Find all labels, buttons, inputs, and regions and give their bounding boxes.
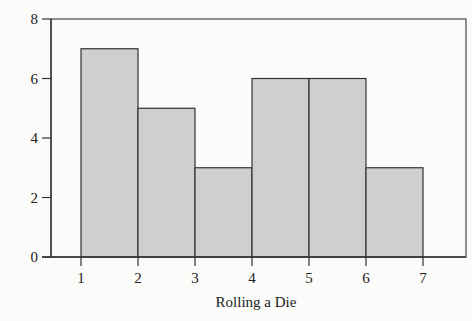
x-tick-label: 2 [134,270,142,286]
histogram-bar [366,168,423,257]
histogram-bar [309,79,366,258]
x-tick-label: 5 [305,270,313,286]
histogram-chart: 02468 1234567 Rolling a Die [0,0,472,321]
x-axis-label: Rolling a Die [216,294,297,310]
y-tick-label: 6 [31,71,39,87]
x-tick-label: 7 [419,270,427,286]
y-tick-label: 2 [31,190,39,206]
histogram-bar [81,49,138,257]
histogram-bar [252,79,309,258]
histogram-bar [195,168,252,257]
x-axis: 1234567 [42,257,466,286]
x-tick-label: 1 [77,270,85,286]
y-axis: 02468 [31,11,52,265]
x-tick-label: 4 [248,270,256,286]
histogram-bar [138,108,195,257]
bars [81,49,423,257]
y-tick-label: 0 [31,249,39,265]
x-tick-label: 6 [362,270,370,286]
y-tick-label: 4 [31,130,39,146]
y-tick-label: 8 [31,11,39,27]
x-tick-label: 3 [191,270,199,286]
